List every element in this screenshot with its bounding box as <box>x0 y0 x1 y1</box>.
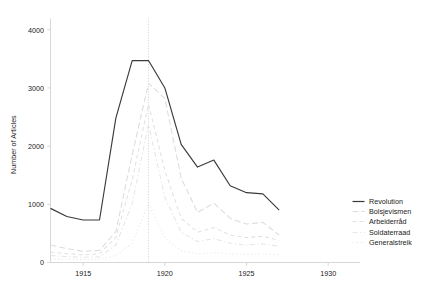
y-tick-label: 3000 <box>10 84 44 93</box>
legend-label: Generalstreik <box>369 239 412 246</box>
legend-item-arbeiderr-d[interactable]: Arbeiderråd <box>352 217 438 227</box>
axis-layer <box>47 19 360 266</box>
legend-item-generalstreik[interactable]: Generalstreik <box>352 238 438 248</box>
legend-item-revolution[interactable]: Revolution <box>352 196 438 206</box>
series-line-bolsjevismen <box>51 83 280 251</box>
legend-swatch-icon <box>352 197 365 206</box>
legend-swatch-icon <box>352 238 365 247</box>
line-chart-figure: 01000200030004000 1915192019251930 Numbe… <box>0 0 439 296</box>
legend-item-bolsjevismen[interactable]: Bolsjevismen <box>352 206 438 216</box>
legend-item-soldaterraad[interactable]: Soldaterraad <box>352 227 438 237</box>
series-line-generalstreik <box>51 203 280 259</box>
y-tick-label: 1000 <box>10 200 44 209</box>
plot-canvas <box>0 0 439 296</box>
series-layer <box>51 61 280 260</box>
x-tick-label: 1920 <box>145 269 185 278</box>
legend-swatch-icon <box>352 228 365 237</box>
legend-label: Arbeiderråd <box>369 218 407 225</box>
legend-swatch-icon <box>352 207 365 216</box>
chart-legend: RevolutionBolsjevismenArbeiderrådSoldate… <box>352 196 438 248</box>
y-tick-label: 4000 <box>10 26 44 35</box>
y-axis-title: Number of Articles <box>9 115 18 174</box>
legend-label: Soldaterraad <box>369 229 410 236</box>
legend-label: Revolution <box>369 198 403 205</box>
x-tick-label: 1925 <box>227 269 267 278</box>
legend-label: Bolsjevismen <box>369 208 411 215</box>
x-tick-label: 1930 <box>308 269 348 278</box>
series-line-arbeiderr-d <box>51 104 280 255</box>
legend-swatch-icon <box>352 217 365 226</box>
y-tick-label: 0 <box>10 258 44 267</box>
x-tick-label: 1915 <box>63 269 103 278</box>
